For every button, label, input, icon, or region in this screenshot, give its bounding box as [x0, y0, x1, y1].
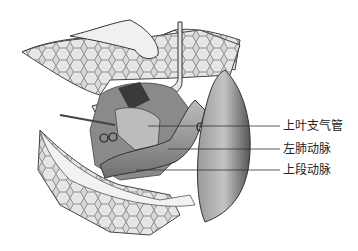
label-left-pulmonary-artery: 左肺动脉 [283, 142, 331, 156]
label-upper-lobe-bronchus: 上叶支气管 [283, 119, 343, 133]
label-upper-segment-artery: 上段动脉 [283, 163, 331, 177]
anatomical-illustration: 上叶支气管 左肺动脉 上段动脉 [0, 0, 358, 251]
